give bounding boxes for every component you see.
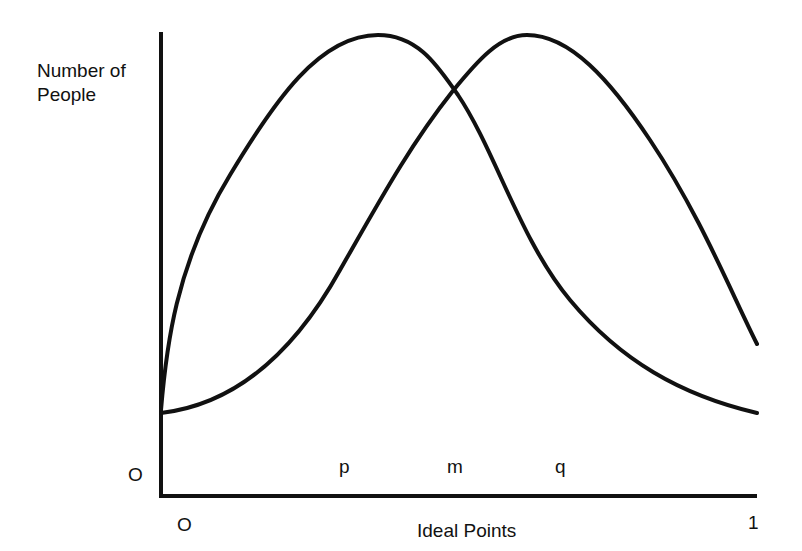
- marker-m: m: [447, 456, 463, 478]
- x-tick-one: 1: [748, 512, 759, 534]
- curve-q: [161, 35, 757, 413]
- x-tick-origin: O: [177, 514, 192, 536]
- y-axis-label: Number of People: [37, 59, 157, 107]
- marker-q: q: [555, 456, 566, 478]
- marker-p: p: [339, 456, 350, 478]
- y-axis-label-line-2: People: [37, 83, 157, 107]
- x-axis-label: Ideal Points: [417, 520, 516, 542]
- y-axis-label-line-1: Number of: [37, 59, 157, 83]
- curve-p: [161, 35, 757, 413]
- y-tick-origin: O: [128, 464, 143, 486]
